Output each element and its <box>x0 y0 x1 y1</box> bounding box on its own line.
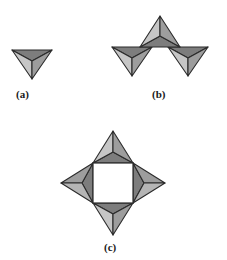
tetrahedra-figure <box>0 0 227 260</box>
panel-c-tetrahedra-ring <box>61 131 165 235</box>
figure-container: (a) (b) (c) <box>0 0 227 260</box>
tetrahedron-b-center <box>140 16 180 47</box>
tetrahedron-c-right <box>133 163 165 203</box>
tetrahedron-b-right <box>168 47 208 76</box>
tetrahedron-a1 <box>12 50 52 79</box>
tetrahedron-c-left <box>61 163 93 203</box>
ring-central-void <box>93 163 133 203</box>
panel-c-caption: (c) <box>104 241 116 253</box>
panel-a-single-tetrahedron <box>12 50 52 79</box>
tetrahedron-c-bottom <box>93 203 133 235</box>
panel-b-caption: (b) <box>152 88 165 100</box>
tetrahedron-b-left <box>112 47 152 76</box>
tetrahedron-c-top <box>93 131 133 163</box>
panel-a-caption: (a) <box>16 88 29 100</box>
panel-b-tetrahedra-chain <box>112 16 208 76</box>
